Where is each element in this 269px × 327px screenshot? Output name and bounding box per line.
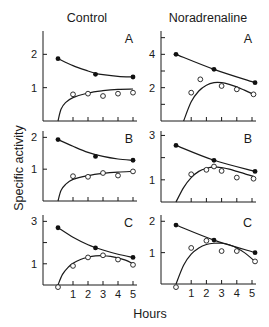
open-series-curve bbox=[58, 89, 133, 121]
open-circle-marker bbox=[56, 285, 61, 290]
x-tick-label: 2 bbox=[85, 288, 91, 300]
filled-circle-marker bbox=[174, 52, 179, 57]
y-tick-label: 2 bbox=[149, 82, 155, 94]
panel-letter: C bbox=[243, 216, 252, 230]
y-tick-label: 3 bbox=[31, 215, 37, 227]
axis-lines bbox=[43, 31, 137, 121]
open-circle-marker bbox=[174, 285, 179, 290]
panel-noradrenaline-B: 13B bbox=[149, 129, 258, 202]
panels: 12A24A12B13B1312345C1212345C bbox=[31, 31, 258, 300]
y-tick-label: 2 bbox=[31, 131, 37, 143]
y-tick-label: 1 bbox=[31, 258, 37, 270]
open-circle-marker bbox=[219, 169, 224, 174]
y-tick-label: 1 bbox=[149, 247, 155, 259]
x-tick-label: 5 bbox=[249, 287, 255, 299]
open-circle-marker bbox=[86, 255, 91, 260]
filled-circle-marker bbox=[56, 56, 61, 61]
filled-circle-marker bbox=[93, 245, 98, 250]
x-tick-label: 4 bbox=[234, 287, 240, 299]
filled-circle-marker bbox=[131, 158, 136, 163]
open-circle-marker bbox=[86, 174, 91, 179]
open-circle-marker bbox=[204, 238, 209, 243]
open-circle-marker bbox=[131, 262, 136, 267]
y-tick-label: 3 bbox=[149, 129, 155, 141]
open-circle-marker bbox=[251, 92, 256, 97]
panel-noradrenaline-C: 1212345C bbox=[149, 215, 258, 299]
filled-circle-marker bbox=[253, 80, 258, 85]
open-circle-marker bbox=[189, 90, 194, 95]
filled-circle-marker bbox=[56, 137, 61, 142]
open-series-curve bbox=[184, 82, 254, 121]
open-circle-marker bbox=[198, 77, 203, 82]
open-series-curve bbox=[58, 256, 133, 285]
y-tick-label: 2 bbox=[31, 48, 37, 60]
filled-circle-marker bbox=[253, 250, 258, 255]
panel-letter: B bbox=[125, 132, 133, 146]
open-circle-marker bbox=[116, 257, 121, 262]
filled-series-curve bbox=[58, 228, 133, 258]
column-title-noradrenaline: Noradrenaline bbox=[169, 11, 248, 25]
open-circle-marker bbox=[253, 259, 258, 264]
panel-letter: A bbox=[125, 32, 134, 46]
axis-lines bbox=[161, 131, 256, 202]
x-axis-title: Hours bbox=[133, 307, 166, 321]
axis-lines bbox=[161, 31, 256, 121]
panel-letter: A bbox=[244, 32, 253, 46]
open-circle-marker bbox=[189, 172, 194, 177]
open-circle-marker bbox=[204, 167, 209, 172]
open-circle-marker bbox=[101, 94, 106, 99]
open-circle-marker bbox=[71, 92, 76, 97]
open-circle-marker bbox=[234, 175, 239, 180]
y-tick-label: 1 bbox=[149, 174, 155, 186]
y-tick-label: 1 bbox=[31, 163, 37, 175]
x-tick-label: 4 bbox=[115, 288, 121, 300]
filled-circle-marker bbox=[93, 72, 98, 77]
figure: Control Noradrenaline Specific activity … bbox=[0, 0, 269, 327]
open-circle-marker bbox=[131, 90, 136, 95]
panel-letter: B bbox=[244, 132, 252, 146]
open-circle-marker bbox=[86, 91, 91, 96]
x-tick-label: 5 bbox=[130, 288, 136, 300]
open-series-curve bbox=[176, 167, 254, 202]
column-title-control: Control bbox=[67, 11, 107, 25]
panel-control-A: 12A bbox=[31, 31, 137, 121]
open-circle-marker bbox=[101, 171, 106, 176]
open-circle-marker bbox=[219, 249, 224, 254]
filled-circle-marker bbox=[56, 225, 61, 230]
filled-circle-marker bbox=[131, 75, 136, 80]
open-series-curve bbox=[58, 171, 133, 201]
open-circle-marker bbox=[251, 176, 256, 181]
filled-circle-marker bbox=[93, 154, 98, 159]
y-axis-title: Specific activity bbox=[12, 125, 26, 211]
x-tick-label: 2 bbox=[203, 287, 209, 299]
panel-control-C: 1312345C bbox=[31, 215, 137, 300]
panel-control-B: 12B bbox=[31, 131, 137, 201]
filled-circle-marker bbox=[212, 67, 217, 72]
panel-noradrenaline-A: 24A bbox=[149, 31, 258, 121]
y-tick-label: 1 bbox=[31, 82, 37, 94]
x-tick-label: 1 bbox=[70, 288, 76, 300]
open-circle-marker bbox=[131, 169, 136, 174]
y-tick-label: 2 bbox=[149, 215, 155, 227]
filled-circle-marker bbox=[174, 143, 179, 148]
open-circle-marker bbox=[116, 173, 121, 178]
x-tick-label: 3 bbox=[100, 288, 106, 300]
open-circle-marker bbox=[189, 246, 194, 251]
filled-circle-marker bbox=[253, 169, 258, 174]
filled-circle-marker bbox=[212, 158, 217, 163]
open-circle-marker bbox=[116, 91, 121, 96]
open-circle-marker bbox=[234, 87, 239, 92]
filled-circle-marker bbox=[174, 223, 179, 228]
filled-circle-marker bbox=[131, 255, 136, 260]
axis-lines bbox=[43, 215, 137, 285]
open-circle-marker bbox=[234, 249, 239, 254]
panel-letter: C bbox=[124, 216, 133, 230]
x-tick-label: 1 bbox=[188, 287, 194, 299]
open-circle-marker bbox=[71, 174, 76, 179]
y-tick-label: 4 bbox=[149, 48, 155, 60]
open-circle-marker bbox=[71, 264, 76, 269]
open-circle-marker bbox=[219, 84, 224, 89]
open-circle-marker bbox=[101, 253, 106, 258]
open-circle-marker bbox=[212, 164, 217, 169]
filled-circle-marker bbox=[212, 238, 217, 243]
